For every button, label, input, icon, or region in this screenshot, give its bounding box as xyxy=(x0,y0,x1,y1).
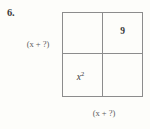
area-cell-bottom-right xyxy=(103,54,142,96)
area-cell-bottom-left: x2 xyxy=(63,54,103,96)
bottom-side-length-label: (x + ?) xyxy=(80,108,128,118)
area-model-grid: 9 x2 xyxy=(63,13,142,96)
area-cell-top-left xyxy=(63,13,103,54)
worksheet-problem: 6. (x + ?) 9 x2 (x + ?) xyxy=(0,0,150,129)
area-cell-top-right-value: 9 xyxy=(120,26,125,36)
left-side-length-label: (x + ?) xyxy=(16,39,60,49)
problem-number: 6. xyxy=(7,7,14,19)
area-model-box: 9 x2 xyxy=(62,12,143,97)
area-cell-bottom-left-exponent: 2 xyxy=(81,70,84,77)
area-cell-top-right: 9 xyxy=(103,13,142,54)
area-cell-bottom-left-value: x2 xyxy=(77,72,84,82)
